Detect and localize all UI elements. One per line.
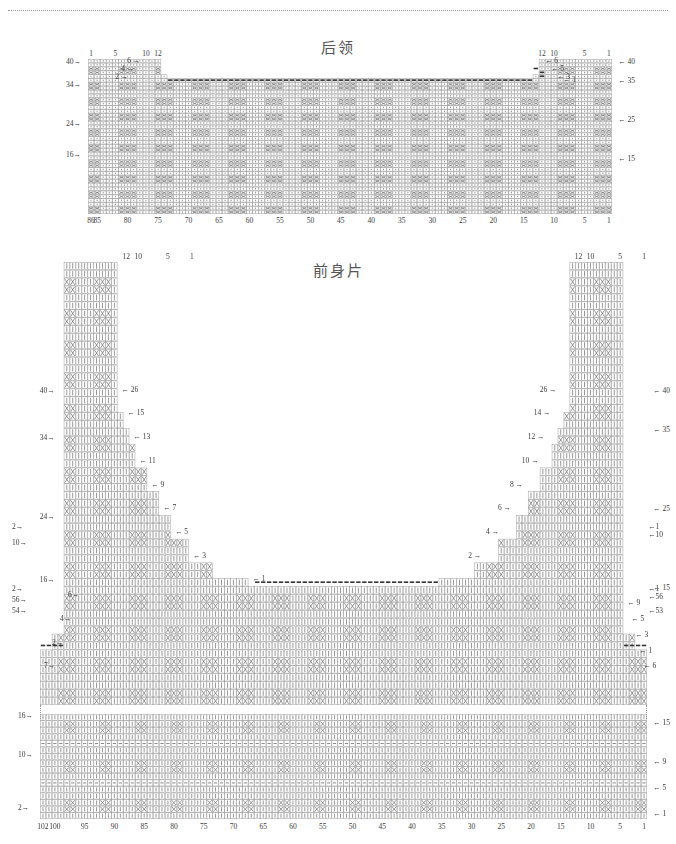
hem-bottom-tick-100: 100 <box>49 822 60 831</box>
hem-bottom-tick-70: 70 <box>230 822 238 831</box>
hem-bottom-tick-30: 30 <box>468 822 476 831</box>
front-body-row-right-1-10: ←10 <box>648 531 663 539</box>
front-body-row-right-4-53: ←53 <box>648 607 663 615</box>
back-bottom-tick-50: 50 <box>307 216 315 225</box>
back-right-step-2: 2 → <box>115 73 128 81</box>
back-bottom-tick-40: 40 <box>368 216 376 225</box>
front-row-label-right-25: ← 25 <box>653 505 670 513</box>
back-top-tick-left-10: 10 <box>142 49 150 58</box>
hem-bottom-tick-5: 5 <box>618 822 622 831</box>
back-bottom-tick-30: 30 <box>429 216 437 225</box>
front-left-neck-step-13: ← 13 <box>133 433 150 441</box>
front-body-grid <box>40 262 647 705</box>
hem-bottom-tick-90: 90 <box>111 822 119 831</box>
back-bottom-tick-1: 1 <box>607 216 611 225</box>
back-bottom-tick-55: 55 <box>276 216 284 225</box>
back-bottom-tick-70: 70 <box>185 216 193 225</box>
front-top-tick-right-1: 1 <box>642 252 646 261</box>
back-row-label-right-35: ← 35 <box>618 77 635 85</box>
back-left-step-1: ← 1 <box>563 76 576 84</box>
back-collar-grid <box>88 59 612 214</box>
front-top-tick-left-12: 12 <box>123 252 131 261</box>
front-top-tick-right-5: 5 <box>618 252 622 261</box>
hem-bottom-tick-45: 45 <box>378 822 386 831</box>
back-top-tick-left-1: 1 <box>89 49 93 58</box>
front-body-row-left-4-54: 54→ <box>12 607 27 615</box>
back-top-tick-right-1: 1 <box>607 49 611 58</box>
front-body-row-left-2-2: 2→ <box>12 585 23 593</box>
front-right-neck-step-12: 12 → <box>528 433 545 441</box>
front-right-armhole-step-9: ← 9 <box>627 599 640 607</box>
hem-bottom-tick-25: 25 <box>497 822 505 831</box>
front-row-label-right-40: ← 40 <box>653 387 670 395</box>
back-bottom-tick-85: 85 <box>93 216 101 225</box>
front-right-armhole-step-1: ← 1 <box>639 647 652 655</box>
front-left-neck-step-3: ← 3 <box>193 552 206 560</box>
hem-row-label-left-10: 10→ <box>18 751 33 759</box>
back-top-tick-right-5: 5 <box>583 49 587 58</box>
back-bottom-tick-5: 5 <box>583 216 587 225</box>
back-top-tick-left-12: 12 <box>154 49 162 58</box>
separator-left <box>40 705 41 719</box>
back-row-label-right-40: ← 40 <box>618 58 635 66</box>
front-body-row-left-3-56: 56→ <box>12 596 27 604</box>
hem-bottom-tick-35: 35 <box>438 822 446 831</box>
front-left-armhole-step-4: 4→ <box>60 615 71 623</box>
chart-title-back-collar: 后领 <box>238 36 438 57</box>
hem-bottom-tick-10: 10 <box>587 822 595 831</box>
hem-row-label-right-9: ← 9 <box>653 758 666 766</box>
back-bottom-tick-10: 10 <box>550 216 558 225</box>
front-left-neck-step-9: ← 9 <box>151 481 164 489</box>
hem-bottom-tick-102: 102 <box>37 822 48 831</box>
front-top-tick-left-1: 1 <box>190 252 194 261</box>
hem-bottom-tick-55: 55 <box>319 822 327 831</box>
front-right-neck-step-14: 14 → <box>534 409 551 417</box>
front-right-neck-step-4: 4 → <box>486 528 499 536</box>
hem-bottom-tick-85: 85 <box>140 822 148 831</box>
hem-bottom-tick-75: 75 <box>200 822 208 831</box>
hem-row-label-right-1: ← 1 <box>653 810 666 818</box>
back-bottom-tick-25: 25 <box>459 216 467 225</box>
front-left-armhole-step-6: 6→ <box>68 591 79 599</box>
hem-row-label-left-2: 2→ <box>18 804 29 812</box>
front-right-neck-step-10: 10 → <box>522 457 539 465</box>
back-bottom-tick-35: 35 <box>398 216 406 225</box>
back-bottom-tick-45: 45 <box>337 216 345 225</box>
back-row-label-right-15: ← 15 <box>618 155 635 163</box>
hem-bottom-tick-40: 40 <box>408 822 416 831</box>
separator-top <box>8 10 668 11</box>
front-row-label-left-16: 16→ <box>40 576 55 584</box>
front-top-tick-left-5: 5 <box>166 252 170 261</box>
front-right-armhole-step-6: ← 6 <box>643 662 656 670</box>
front-left-neck-step-11: ← 11 <box>139 457 156 465</box>
front-left-neck-step-5: ← 5 <box>175 528 188 536</box>
front-row-label-left-40: 40→ <box>40 387 55 395</box>
front-left-armhole-step-7: 7→ <box>44 662 55 670</box>
front-left-neck-step-15: ← 15 <box>127 409 144 417</box>
hem-bottom-tick-1: 1 <box>642 822 646 831</box>
hem-row-label-right-15: ← 15 <box>653 719 670 727</box>
back-bottom-tick-20: 20 <box>489 216 497 225</box>
hem-bottom-tick-50: 50 <box>349 822 357 831</box>
front-top-tick-left-10: 10 <box>134 252 142 261</box>
front-right-armhole-step-3: ← 3 <box>635 631 648 639</box>
front-body-row-left-0-2: 2→ <box>12 523 23 531</box>
front-right-neck-step-2: 2 → <box>468 552 481 560</box>
back-bottom-tick-65: 65 <box>215 216 223 225</box>
hem-bottom-tick-20: 20 <box>527 822 535 831</box>
back-row-label-left-40: 40→ <box>66 58 81 66</box>
back-row-label-left-24: 24→ <box>66 120 81 128</box>
hem-bottom-tick-65: 65 <box>259 822 267 831</box>
back-row-label-left-16: 16→ <box>66 151 81 159</box>
back-row-label-right-25: ← 25 <box>618 116 635 124</box>
back-bottom-tick-15: 15 <box>520 216 528 225</box>
hem-bottom-tick-15: 15 <box>557 822 565 831</box>
back-bottom-tick-75: 75 <box>154 216 162 225</box>
front-body-row-right-3-56: ←56 <box>648 593 663 601</box>
front-right-neck-step-8: 8 → <box>510 481 523 489</box>
separator-right <box>646 705 647 719</box>
front-row-label-right-35: ← 35 <box>653 426 670 434</box>
back-bottom-tick-60: 60 <box>246 216 254 225</box>
front-hem-grid <box>40 714 647 819</box>
front-left-neck-step-26: ← 26 <box>121 386 138 394</box>
